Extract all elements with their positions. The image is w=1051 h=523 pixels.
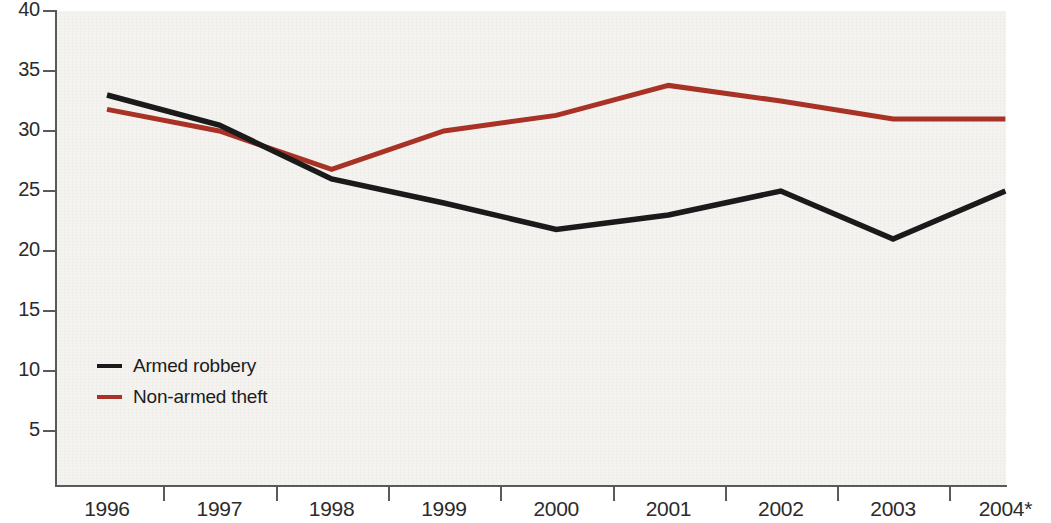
legend: Armed robberyNon-armed theft [97,350,267,412]
y-tick-label: 10 [0,358,40,381]
plot-background-texture [56,11,1006,485]
y-tick-label: 25 [0,178,40,201]
y-tick-mark [43,310,56,312]
y-tick-mark [43,190,56,192]
y-tick-mark [43,70,56,72]
y-tick-label: 5 [0,418,40,441]
x-tick-label: 2003 [838,497,948,521]
x-tick-label: 1997 [164,497,274,521]
legend-item[interactable]: Armed robbery [97,350,267,381]
legend-label: Armed robbery [133,355,256,377]
x-tick-label: 1998 [277,497,387,521]
x-tick-label: 2001 [614,497,724,521]
x-tick-label: 2004* [950,497,1051,521]
x-tick-label: 2002 [726,497,836,521]
x-tick-label: 1996 [52,497,162,521]
y-axis-line [55,10,57,487]
y-tick-mark [43,130,56,132]
y-tick-mark [43,430,56,432]
y-tick-mark [43,370,56,372]
y-tick-mark [43,250,56,252]
plot-area [56,11,1006,485]
x-tick-label: 2000 [501,497,611,521]
y-tick-label: 15 [0,298,40,321]
y-tick-label: 40 [0,0,40,21]
y-tick-label: 30 [0,118,40,141]
y-tick-mark [43,10,56,12]
line-chart: 403530252015105 199619971998199920002001… [0,0,1051,523]
legend-item[interactable]: Non-armed theft [97,381,267,412]
y-tick-label: 20 [0,238,40,261]
legend-swatch-icon [97,364,122,368]
legend-swatch-icon [97,395,122,399]
legend-label: Non-armed theft [133,386,267,408]
x-tick-label: 1999 [389,497,499,521]
y-tick-label: 35 [0,58,40,81]
x-axis-line [55,485,1007,487]
